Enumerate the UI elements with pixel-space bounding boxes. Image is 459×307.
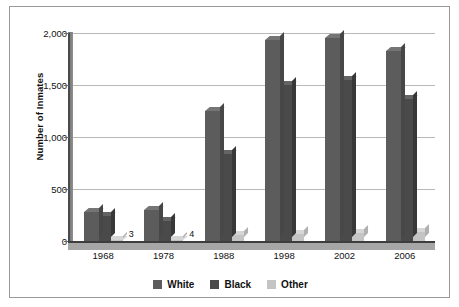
bar-group [254, 33, 314, 241]
bar-group [194, 33, 254, 241]
bar-side-face [244, 227, 248, 237]
y-tick-mark [64, 85, 69, 86]
bar [84, 212, 99, 241]
y-tick-mark [64, 137, 69, 138]
bar-body [144, 210, 159, 241]
chart-frame: Number of Inmates 05001,0001,5002,000 34… [9, 6, 450, 298]
legend-item[interactable]: Black [210, 279, 251, 290]
bar-side-face [401, 43, 405, 237]
legend-label: Other [281, 279, 308, 290]
bar-body [84, 212, 99, 241]
bar-side-face [364, 225, 368, 237]
bar-side-face [304, 226, 308, 237]
bar-body [386, 51, 401, 241]
bar-side-face [413, 91, 417, 237]
legend-item[interactable]: White [153, 279, 194, 290]
bar-group [314, 33, 374, 241]
x-tick-label: 2006 [394, 250, 415, 261]
bar-side-face [159, 202, 163, 237]
x-tick-label: 1988 [213, 250, 234, 261]
bar-side-face [220, 103, 224, 237]
axis-floor [68, 241, 435, 250]
bar-side-face [111, 208, 115, 237]
legend-swatch-icon [267, 280, 276, 289]
bar [144, 210, 159, 241]
x-axis-labels: 196819781988199820022006 [73, 250, 435, 266]
bar-body [205, 111, 220, 241]
x-tick-label: 1998 [274, 250, 295, 261]
bar [205, 111, 220, 241]
legend-label: Black [224, 279, 251, 290]
bar-body [325, 38, 340, 241]
legend-swatch-icon [210, 280, 219, 289]
y-tick-mark [64, 189, 69, 190]
bar-side-face [99, 204, 103, 237]
bar-side-face [352, 72, 356, 237]
chart-legend: WhiteBlackOther [10, 279, 451, 290]
bar [386, 51, 401, 241]
y-tick-mark [64, 33, 69, 34]
bar-side-face [425, 224, 429, 237]
x-tick-label: 2002 [334, 250, 355, 261]
bar [265, 40, 280, 241]
legend-item[interactable]: Other [267, 279, 308, 290]
bar-group: 4 [133, 33, 193, 241]
bar-side-face [340, 30, 344, 237]
legend-label: White [167, 279, 194, 290]
x-tick-label: 1978 [153, 250, 174, 261]
bar-side-face [171, 213, 175, 237]
bar-side-face [232, 146, 236, 237]
y-axis-title: Number of Inmates [34, 47, 45, 187]
bar-body [265, 40, 280, 241]
legend-swatch-icon [153, 280, 162, 289]
bar [325, 38, 340, 241]
x-tick-label: 1968 [93, 250, 114, 261]
bar-side-face [292, 77, 296, 237]
bar-group [375, 33, 435, 241]
plot-area: 05001,0001,5002,000 34 [73, 33, 435, 241]
bar-group: 3 [73, 33, 133, 241]
chart-screenshot: Number of Inmates 05001,0001,5002,000 34… [0, 0, 459, 307]
bar-side-face [280, 32, 284, 237]
